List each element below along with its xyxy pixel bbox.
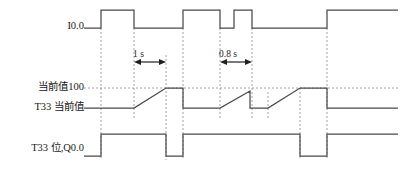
timing-diagram: I0.0 当前值100 T33 当前值 T33 位,Q0.0 1 s 0.8 s [0,0,403,173]
dimension-arrow-1s-head-right [159,59,166,65]
row-label-i00: I0.0 [6,20,84,32]
row-label-t33-current-value: T33 当前值 [2,101,84,113]
guide-lines [101,28,327,160]
row-label-t33-bit-q00: T33 位,Q0.0 [2,142,84,154]
waveform-i00 [84,10,398,28]
dimension-label-08s: 0.8 s [219,49,237,60]
dimension-arrow-08s-head-right [245,59,252,65]
dimension-label-1s: 1 s [133,49,144,60]
waveform-t33-bit-q00 [84,134,398,156]
row-label-preset-value: 当前值100 [2,81,84,93]
waveform-t33-current-value [84,88,398,108]
